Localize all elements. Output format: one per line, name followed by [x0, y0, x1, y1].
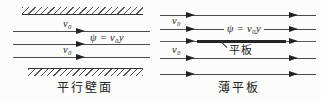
velocity-label: v₀ [63, 19, 72, 30]
arrowhead-icon [76, 28, 85, 34]
plate-line [197, 40, 286, 43]
stream-function-label: ψ = v₀y [224, 24, 264, 35]
arrowhead-icon [76, 41, 85, 47]
velocity-label: v₀ [63, 45, 72, 56]
caption-parallel-walls: 平行壁面 [57, 82, 113, 94]
arrowhead-icon [186, 38, 195, 44]
stream-function-label: ψ = v₀y [90, 33, 124, 44]
velocity-label: v₀ [172, 45, 181, 56]
plate-label: 平板 [229, 45, 253, 56]
arrowhead-icon [289, 26, 298, 32]
arrowhead-icon [76, 54, 85, 60]
arrowhead-icon [289, 12, 298, 18]
arrowhead-icon [186, 26, 195, 32]
arrowhead-icon [186, 55, 195, 61]
arrowhead-icon [186, 12, 195, 18]
caption-thin-plate: 薄平板 [218, 82, 260, 94]
bottom-wall-hatching [28, 68, 143, 76]
arrowhead-icon [186, 71, 195, 77]
arrowhead-icon [289, 55, 298, 61]
arrowhead-icon [289, 71, 298, 77]
arrowhead-icon [289, 38, 298, 44]
uniform-flow-diagram: v₀ v₀ ψ = v₀y 平行壁面 v₀ v₀ ψ = v₀y 平 [0, 0, 321, 102]
top-wall-hatching [22, 7, 143, 15]
velocity-label: v₀ [172, 16, 181, 27]
